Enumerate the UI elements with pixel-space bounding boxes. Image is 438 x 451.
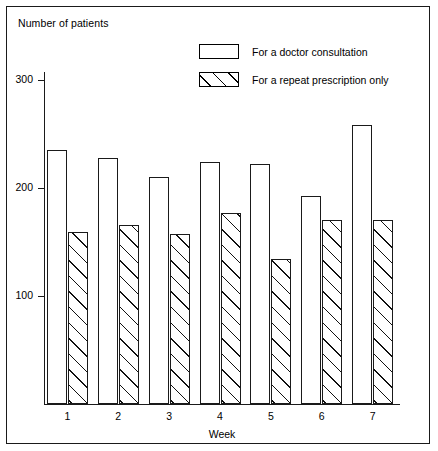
bar-week-4-repeat-prescription [221,213,241,404]
y-tick-100: 100 [38,296,45,297]
bar-week-5-doctor-consultation [250,164,270,404]
y-axis-line [44,72,45,405]
y-tick-label-200: 200 [15,181,33,193]
bar-week-3-repeat-prescription [170,234,190,404]
x-tick-label-5: 5 [268,410,274,422]
plot-area: 100200300 1234567 Week [0,0,438,451]
bar-week-2-repeat-prescription [119,225,139,404]
bar-week-1-doctor-consultation [47,150,67,404]
x-tick-label-1: 1 [65,410,71,422]
x-tick-label-3: 3 [166,410,172,422]
bar-week-7-doctor-consultation [352,125,372,404]
y-tick-300: 300 [38,80,45,81]
y-tick-label-100: 100 [15,289,33,301]
x-axis-line [44,404,400,405]
x-tick-label-4: 4 [217,410,223,422]
bar-week-3-doctor-consultation [149,177,169,404]
figure-container: Number of patients For a doctor consulta… [0,0,438,451]
x-tick-label-2: 2 [115,410,121,422]
bar-week-6-repeat-prescription [322,220,342,404]
bar-week-7-repeat-prescription [373,220,393,404]
bar-week-4-doctor-consultation [200,162,220,404]
bar-week-5-repeat-prescription [271,259,291,404]
bar-week-6-doctor-consultation [301,196,321,404]
x-tick-label-7: 7 [370,410,376,422]
x-tick-label-6: 6 [319,410,325,422]
y-tick-200: 200 [38,188,45,189]
x-axis-title: Week [209,428,236,440]
bar-week-1-repeat-prescription [68,232,88,404]
bar-week-2-doctor-consultation [98,158,118,404]
y-tick-label-300: 300 [15,73,33,85]
